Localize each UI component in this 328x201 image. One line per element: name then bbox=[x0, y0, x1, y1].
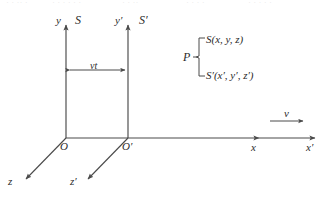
separation-label-vt: vt bbox=[90, 61, 97, 71]
point-coords-primed: S′(x′, y′, z′) bbox=[206, 70, 254, 81]
origin-label-o: O bbox=[60, 141, 68, 152]
origin-label-o-prime: O′ bbox=[122, 141, 132, 152]
point-label-p: P bbox=[183, 51, 190, 63]
axis-label-y: y bbox=[56, 15, 61, 26]
point-coords-unprimed: S(x, y, z) bbox=[206, 34, 243, 45]
point-brace bbox=[196, 38, 205, 76]
axis-label-x-prime: x′ bbox=[306, 142, 313, 153]
diagram-canvas bbox=[0, 0, 328, 201]
axis-label-x: x bbox=[251, 142, 256, 153]
axis-label-y-prime: y′ bbox=[115, 15, 122, 26]
velocity-label-v: v bbox=[284, 108, 289, 119]
axis-label-z-prime: z′ bbox=[70, 176, 77, 187]
reference-frames-figure: · · ·· · · · · · · · · · ·· · · · · · · … bbox=[0, 0, 328, 201]
frame-label-s: S bbox=[75, 14, 81, 26]
frame-label-s-prime: S′ bbox=[139, 14, 148, 26]
axis-label-z: z bbox=[8, 176, 12, 187]
